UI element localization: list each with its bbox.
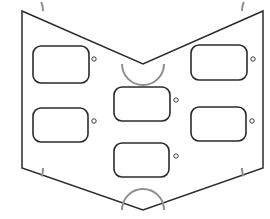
hole-top-left (92, 57, 96, 61)
cutout-bottom-right (191, 107, 246, 141)
cutout-middle-center (114, 87, 170, 121)
cutout-lower-center (114, 143, 169, 177)
corner-arc-top-left (41, 2, 43, 11)
hole-bottom-left (92, 119, 96, 123)
corner-arc-top-right (242, 2, 244, 11)
hole-middle-center (174, 98, 178, 102)
cutout-bottom-left (33, 108, 88, 142)
hole-lower-center (174, 154, 178, 158)
panel-technical-drawing (0, 0, 270, 219)
cutout-top-left (33, 46, 89, 83)
hole-top-right (251, 57, 255, 61)
hole-bottom-right (250, 119, 254, 123)
cutout-top-right (191, 45, 247, 80)
